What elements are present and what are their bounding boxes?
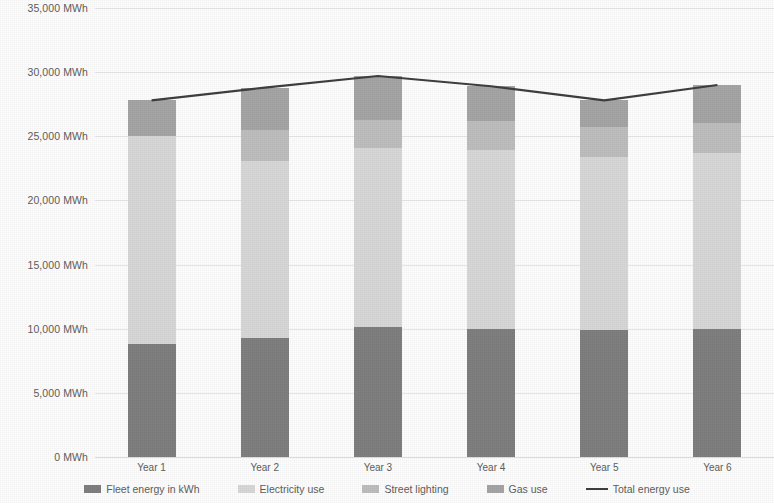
gridline — [95, 200, 774, 201]
legend-label: Fleet energy in kWh — [106, 483, 199, 495]
bar-segment[interactable] — [580, 330, 628, 457]
gridline — [95, 329, 774, 330]
legend-label: Electricity use — [260, 483, 325, 495]
legend-label: Total energy use — [613, 483, 690, 495]
bar-segment[interactable] — [128, 136, 176, 344]
bar-segment[interactable] — [693, 85, 741, 123]
y-axis-tick-label: 0 MWh — [0, 451, 88, 463]
bar-column[interactable] — [241, 8, 289, 457]
plot-area — [95, 8, 774, 457]
total-energy-use-polyline — [152, 76, 718, 100]
bar-segment[interactable] — [241, 88, 289, 130]
bar-segment[interactable] — [354, 327, 402, 457]
bar-segment[interactable] — [241, 338, 289, 457]
x-axis-tick-label: Year 4 — [436, 462, 546, 473]
gridline — [95, 265, 774, 266]
legend-item[interactable]: Gas use — [487, 483, 548, 495]
y-axis-tick-label: 15,000 MWh — [0, 259, 88, 271]
bar-segment[interactable] — [241, 130, 289, 161]
gridline — [95, 72, 774, 73]
bar-column[interactable] — [354, 8, 402, 457]
bar-segment[interactable] — [467, 121, 515, 151]
legend-color-swatch — [238, 485, 255, 493]
y-axis-tick-label: 25,000 MWh — [0, 130, 88, 142]
bar-segment[interactable] — [467, 86, 515, 121]
x-axis-tick-label: Year 3 — [323, 462, 433, 473]
legend-color-swatch — [362, 485, 379, 493]
y-axis-tick-label: 35,000 MWh — [0, 2, 88, 14]
legend-label: Street lighting — [384, 483, 448, 495]
y-axis-tick-label: 10,000 MWh — [0, 323, 88, 335]
legend-line-swatch — [586, 488, 608, 490]
gridline — [95, 8, 774, 9]
bar-segment[interactable] — [580, 127, 628, 157]
bar-segment[interactable] — [693, 123, 741, 153]
x-axis-tick-label: Year 6 — [662, 462, 772, 473]
gridline — [95, 393, 774, 394]
legend-item[interactable]: Street lighting — [362, 483, 448, 495]
bar-column[interactable] — [467, 8, 515, 457]
y-axis-tick-label: 30,000 MWh — [0, 66, 88, 78]
legend-color-swatch — [487, 485, 504, 493]
bar-column[interactable] — [128, 8, 176, 457]
bar-column[interactable] — [580, 8, 628, 457]
bar-segment[interactable] — [128, 100, 176, 136]
y-axis-tick-label: 5,000 MWh — [0, 387, 88, 399]
x-axis-tick-label: Year 5 — [549, 462, 659, 473]
legend-item[interactable]: Electricity use — [238, 483, 325, 495]
legend-item[interactable]: Fleet energy in kWh — [84, 483, 199, 495]
y-axis-tick-label: 20,000 MWh — [0, 194, 88, 206]
gridline — [95, 136, 774, 137]
gridline — [95, 457, 774, 458]
energy-use-stacked-bar-chart: 0 MWh5,000 MWh10,000 MWh15,000 MWh20,000… — [0, 0, 774, 503]
chart-legend: Fleet energy in kWhElectricity useStreet… — [0, 479, 774, 499]
bar-segment[interactable] — [467, 150, 515, 328]
total-energy-use-line — [95, 8, 774, 457]
bar-segment[interactable] — [693, 329, 741, 457]
bar-segment[interactable] — [580, 157, 628, 330]
legend-item[interactable]: Total energy use — [586, 483, 690, 495]
legend-label: Gas use — [509, 483, 548, 495]
x-axis-tick-label: Year 2 — [210, 462, 320, 473]
bar-segment[interactable] — [693, 153, 741, 329]
bar-segment[interactable] — [467, 329, 515, 457]
bar-segment[interactable] — [580, 100, 628, 127]
bar-segment[interactable] — [354, 120, 402, 148]
bar-segment[interactable] — [354, 76, 402, 120]
bar-column[interactable] — [693, 8, 741, 457]
x-axis-tick-label: Year 1 — [97, 462, 207, 473]
bar-segment[interactable] — [128, 344, 176, 457]
bar-segment[interactable] — [241, 161, 289, 338]
legend-color-swatch — [84, 485, 101, 493]
bar-segment[interactable] — [354, 148, 402, 328]
